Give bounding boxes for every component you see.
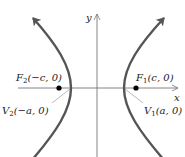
vertex-v2-label: V2(−a, 0)	[2, 105, 49, 118]
left-branch-lower	[32, 88, 71, 157]
vertex-v2-leader	[52, 89, 70, 103]
vertex-v1-label: V1(a, 0)	[144, 105, 182, 118]
y-axis-label: y	[85, 12, 92, 23]
focus-f1	[133, 85, 138, 90]
x-axis-label: x	[174, 92, 180, 103]
focus-f2-label: F2(−c, 0)	[15, 72, 62, 85]
focus-f1-label: F1(c, 0)	[135, 72, 174, 85]
right-branch-lower	[124, 88, 164, 157]
hyperbola-diagram: x y F2(−c, 0) F1(c, 0) V2(−a, 0) V1(a, 0…	[0, 0, 185, 157]
vertex-v1-leader	[125, 89, 143, 103]
focus-f2	[56, 85, 61, 90]
